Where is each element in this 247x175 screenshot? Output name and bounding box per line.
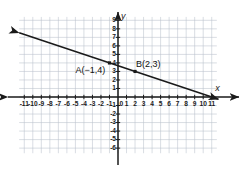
- x-axis-name: x: [215, 84, 220, 93]
- point-marker-b: [133, 70, 136, 73]
- y-tick-label: 9: [107, 17, 116, 24]
- point-a-label: A(−1,4): [75, 66, 105, 75]
- graph-figure: -11-10-9-8-7-6-5-4-3-2-11234567891011 98…: [0, 0, 247, 175]
- y-tick-label: 5: [107, 51, 116, 58]
- y-tick-label: 7: [107, 34, 116, 41]
- point-b-label: B(2,3): [136, 60, 161, 69]
- y-tick-label: -2: [106, 111, 116, 118]
- y-tick-label: 8: [107, 26, 116, 33]
- y-tick-label: -4: [106, 128, 116, 135]
- y-axis-name: y: [121, 12, 126, 21]
- y-tick-label: -3: [106, 119, 116, 126]
- x-tick-label: 11: [206, 101, 217, 108]
- y-tick-label: -6: [106, 145, 116, 152]
- plotted-line: [19, 33, 218, 99]
- y-tick-label: 1: [107, 85, 116, 92]
- origin-label: 0: [120, 101, 124, 108]
- coordinate-plane-svg: [0, 0, 247, 175]
- y-tick-label: 3: [107, 68, 116, 75]
- y-tick-label: -1: [106, 102, 116, 109]
- y-tick-label: 6: [107, 43, 116, 50]
- y-tick-label: 4: [107, 60, 116, 67]
- y-tick-label: -5: [106, 136, 116, 143]
- y-tick-label: 2: [107, 77, 116, 84]
